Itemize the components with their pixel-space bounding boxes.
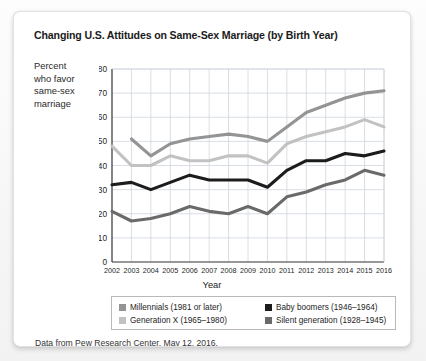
y-axis-label-line-3: same-sex bbox=[34, 85, 75, 96]
legend-item-label: Baby boomers (1946–1964) bbox=[276, 303, 378, 312]
legend-item-label: Silent generation (1928–1945) bbox=[276, 316, 386, 325]
y-axis-label: Percent who favor same-sex marriage bbox=[34, 60, 96, 110]
legend-swatch-icon bbox=[119, 317, 126, 324]
page-title: Changing U.S. Attitudes on Same-Sex Marr… bbox=[34, 29, 338, 41]
y-axis-label-line-1: Percent bbox=[34, 60, 66, 71]
x-tick-label: 2013 bbox=[318, 266, 334, 275]
x-tick-label: 2004 bbox=[143, 266, 159, 275]
y-tick-label: 50 bbox=[99, 136, 107, 146]
legend-item[interactable]: Baby boomers (1946–1964) bbox=[265, 303, 388, 312]
y-tick-label: 10 bbox=[99, 233, 107, 243]
chart-legend: Millennials (1981 or later)Baby boomers … bbox=[111, 296, 396, 330]
legend-item-label: Generation X (1965–1980) bbox=[130, 316, 227, 325]
legend-swatch-icon bbox=[265, 304, 272, 311]
legend-swatch-icon bbox=[119, 304, 126, 311]
source-note: Data from Pew Research Center, May 12, 2… bbox=[35, 338, 218, 347]
plot-area: 0102030405060708020022003200420052006200… bbox=[99, 57, 399, 267]
legend-item[interactable]: Silent generation (1928–1945) bbox=[265, 316, 388, 325]
x-tick-label: 2006 bbox=[182, 266, 198, 275]
x-tick-label: 2014 bbox=[337, 266, 353, 275]
chart-card: Changing U.S. Attitudes on Same-Sex Marr… bbox=[13, 11, 411, 347]
legend-item[interactable]: Generation X (1965–1980) bbox=[119, 316, 265, 325]
legend-swatch-icon bbox=[265, 317, 272, 324]
y-tick-label: 30 bbox=[99, 185, 107, 195]
y-tick-label: 60 bbox=[99, 112, 107, 122]
y-tick-label: 40 bbox=[99, 161, 107, 171]
x-axis-title: Year bbox=[14, 280, 410, 290]
x-tick-label: 2003 bbox=[123, 266, 139, 275]
x-tick-label: 2005 bbox=[162, 266, 178, 275]
screenshot-root: Changing U.S. Attitudes on Same-Sex Marr… bbox=[0, 0, 426, 361]
series-line bbox=[131, 91, 384, 156]
x-tick-label: 2010 bbox=[259, 266, 275, 275]
y-tick-label: 70 bbox=[99, 88, 107, 98]
x-tick-label: 2016 bbox=[376, 266, 392, 275]
legend-item[interactable]: Millennials (1981 or later) bbox=[119, 303, 265, 312]
x-tick-label: 2012 bbox=[298, 266, 314, 275]
y-axis-label-line-2: who favor bbox=[34, 73, 75, 84]
legend-item-label: Millennials (1981 or later) bbox=[130, 303, 222, 312]
x-tick-label: 2007 bbox=[201, 266, 217, 275]
x-tick-label: 2011 bbox=[279, 266, 294, 275]
x-tick-label: 2009 bbox=[240, 266, 256, 275]
x-tick-label: 2002 bbox=[104, 266, 120, 275]
x-tick-label: 2008 bbox=[221, 266, 237, 275]
y-axis-label-line-4: marriage bbox=[34, 98, 71, 109]
y-tick-label: 80 bbox=[99, 64, 107, 74]
x-tick-label: 2015 bbox=[357, 266, 373, 275]
y-tick-label: 20 bbox=[99, 209, 107, 219]
